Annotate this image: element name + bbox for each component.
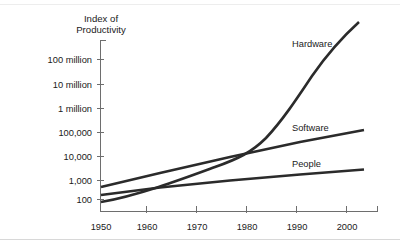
x-tick-label-1970: 1970 (187, 222, 208, 232)
x-tick-label-1980: 1980 (237, 222, 258, 232)
series-label-software: Software (292, 123, 329, 133)
series-label-people: People (292, 159, 321, 169)
chart-title-line1: Index of (84, 13, 118, 24)
y-tick-label-100: 100 (76, 195, 92, 205)
productivity-line-chart: Index of Productivity 100 million 10 mil… (0, 0, 400, 249)
y-tick-label-100-million: 100 million (48, 55, 92, 65)
chart-title-line2: Productivity (76, 24, 126, 35)
series-line-software (101, 130, 364, 187)
x-tick-label-1950: 1950 (91, 222, 112, 232)
x-tick-label-1960: 1960 (137, 222, 158, 232)
series-label-hardware: Hardware (292, 39, 332, 49)
y-tick-label-10000: 10,000 (64, 152, 92, 162)
y-tick-label-1000: 1,000 (69, 176, 92, 186)
chart-page: Index of Productivity 100 million 10 mil… (0, 0, 400, 249)
y-tick-label-100000: 100,000 (58, 128, 92, 138)
y-tick-label-10-million: 10 million (53, 80, 92, 90)
x-tick-label-1990: 1990 (287, 222, 308, 232)
series-line-hardware (101, 22, 359, 202)
x-tick-label-2000: 2000 (337, 222, 358, 232)
y-tick-label-1-million: 1 million (58, 104, 92, 114)
